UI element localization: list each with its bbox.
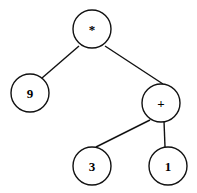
node-label: 3 [89, 159, 96, 174]
node-3: 3 [73, 147, 111, 185]
node-9: 9 [11, 74, 49, 112]
node-root: * [73, 10, 111, 48]
edge-root-plus [105, 46, 163, 84]
node-label: 1 [165, 159, 172, 174]
node-plus: + [142, 84, 180, 122]
edge-plus-3 [96, 120, 150, 147]
node-label: * [89, 22, 96, 37]
node-label: + [157, 96, 164, 111]
node-label: 9 [27, 86, 34, 101]
edge-plus-1 [164, 121, 165, 147]
expression-tree-diagram: * 9 + 3 1 [0, 0, 197, 193]
node-1: 1 [149, 147, 187, 185]
edge-root-9 [42, 46, 79, 78]
